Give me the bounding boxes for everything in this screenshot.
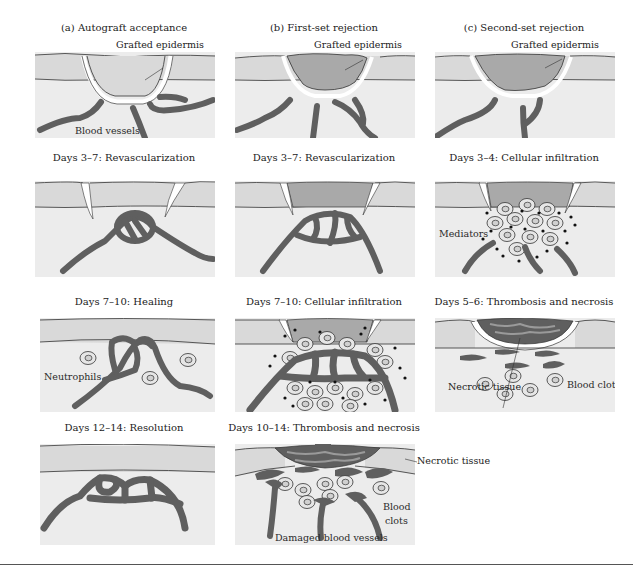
panel-title-b1: (b) First-set rejection: [224, 22, 424, 33]
panel-autograft-healing: Neutrophils: [40, 318, 215, 412]
panel-first-set-rejection: [235, 52, 415, 138]
panel-second-set-rejection: [435, 52, 615, 138]
label-grafted-epidermis-c: Grafted epidermis: [495, 39, 615, 50]
panel-title-c1: (c) Second-set rejection: [424, 22, 624, 33]
panel-first-set-thrombosis: Blood clots Damaged blood vessels: [235, 444, 415, 545]
label-blood-clots-1: Blood: [383, 501, 411, 512]
panel-first-set-infiltration: [235, 318, 415, 412]
panel-autograft-resolution: [40, 444, 215, 545]
panel-title-a1: (a) Autograft acceptance: [24, 22, 224, 33]
panel-title-c2: Days 3–4: Cellular infiltration: [424, 152, 624, 163]
label-necrotic-tissue-b: Necrotic tissue: [417, 455, 517, 466]
panel-title-b2: Days 3–7: Revascularization: [224, 152, 424, 163]
panel-title-a4: Days 12–14: Resolution: [24, 422, 224, 433]
label-mediators: Mediators: [439, 228, 488, 239]
label-blood-vessels: Blood vessels: [75, 125, 140, 136]
panel-autograft-acceptance: Blood vessels: [35, 52, 215, 138]
panel-title-c3: Days 5–6: Thrombosis and necrosis: [424, 296, 624, 307]
bottom-rule: [0, 564, 633, 565]
panel-autograft-revascularization: [35, 181, 215, 277]
panel-first-set-revascularization: [235, 181, 415, 277]
label-blood-clots-2: clots: [385, 515, 408, 526]
panel-title-b4: Days 10–14: Thrombosis and necrosis: [224, 422, 424, 433]
label-damaged-blood-vessels: Damaged blood vessels: [275, 532, 388, 543]
label-grafted-epidermis-a: Grafted epidermis: [100, 39, 220, 50]
panel-title-a3: Days 7–10: Healing: [24, 296, 224, 307]
label-necrotic-tissue-c: Necrotic tissue: [448, 381, 548, 392]
label-blood-clots: Blood clots: [567, 379, 615, 390]
panel-title-a2: Days 3–7: Revascularization: [24, 152, 224, 163]
panel-second-set-thrombosis: Blood clots Necrotic tissue: [435, 318, 615, 412]
label-grafted-epidermis-b: Grafted epidermis: [298, 39, 418, 50]
panel-second-set-infiltration: Mediators: [435, 181, 615, 277]
label-neutrophils: Neutrophils: [44, 371, 101, 382]
panel-title-b3: Days 7–10: Cellular infiltration: [224, 296, 424, 307]
